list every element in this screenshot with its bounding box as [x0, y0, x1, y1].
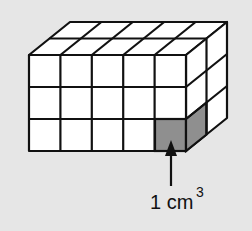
- cube-prism-diagram: [0, 0, 252, 231]
- unit-label: 1 cm: [150, 191, 193, 214]
- unit-exponent: 3: [196, 184, 204, 200]
